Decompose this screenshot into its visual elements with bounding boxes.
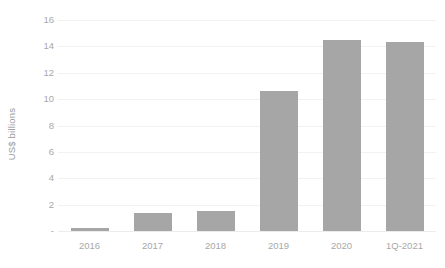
x-axis-tick-label: 2016 [58,238,121,254]
bar-slot [247,20,310,231]
y-axis-tick-label: 16 [24,15,54,25]
y-axis-tick-label: 2 [24,200,54,210]
x-axis-tick-label: 2017 [121,238,184,254]
x-axis-tick-label: 2018 [184,238,247,254]
y-axis-tick-label: 6 [24,147,54,157]
bar-2018[interactable] [197,211,235,231]
gridline [58,231,436,232]
y-axis-tick-label: 8 [24,121,54,131]
y-axis-tick-label: 14 [24,42,54,52]
bar-slot [184,20,247,231]
x-axis-tick-label: 1Q-2021 [373,238,436,254]
plot-area [58,20,436,231]
x-axis-tick-labels: 201620172018201920201Q-2021 [58,238,436,254]
y-axis-tick-labels: -246810121416 [24,0,54,268]
y-axis-title: US$ billions [0,0,22,268]
bar-2020[interactable] [323,40,361,231]
bar-slot [310,20,373,231]
bar-slot [373,20,436,231]
bar-2016[interactable] [71,228,109,231]
y-axis-tick-label: 12 [24,68,54,78]
bar-2017[interactable] [134,213,172,231]
y-axis-tick-label: - [24,226,54,236]
x-axis-tick-label: 2020 [310,238,373,254]
bar-slot [58,20,121,231]
bars-container [58,20,436,231]
bar-slot [121,20,184,231]
x-axis-tick-label: 2019 [247,238,310,254]
y-axis-tick-label: 10 [24,94,54,104]
y-axis-tick-label: 4 [24,174,54,184]
bar-chart: US$ billions -246810121416 2016201720182… [0,0,445,268]
bar-2019[interactable] [260,91,298,231]
bar-1Q-2021[interactable] [386,42,424,231]
